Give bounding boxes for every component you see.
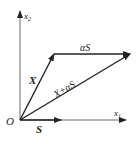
vector-sum-label: X+αS — [51, 78, 77, 100]
vector-diagram: O x2 x1 X αS X+αS S — [0, 0, 137, 144]
x1-axis-label: x1 — [113, 108, 121, 119]
vector-s-label: S — [36, 123, 42, 135]
origin-label: O — [6, 115, 14, 127]
vector-alpha-s-label: αS — [80, 42, 90, 53]
vector-x-label: X — [28, 74, 37, 86]
x2-axis-label: x2 — [23, 11, 31, 22]
